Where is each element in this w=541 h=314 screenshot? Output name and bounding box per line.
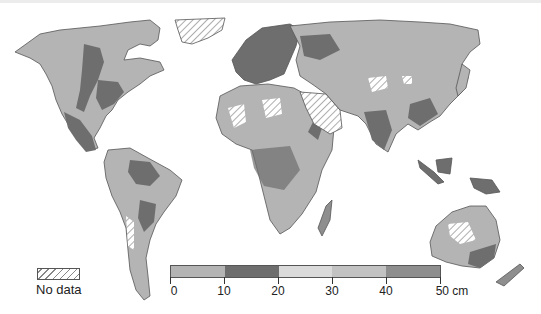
new-zealand [496, 264, 524, 286]
tick-label-30: 30 [325, 284, 338, 298]
tick-mark [332, 277, 333, 284]
tick-label-10: 10 [217, 284, 230, 298]
tick-label-0: 0 [171, 284, 178, 298]
greenland [175, 18, 225, 44]
legend-class-10-20 [225, 266, 279, 277]
no-data-swatch [37, 268, 80, 280]
legend-ticks [170, 277, 441, 285]
tick-mark [170, 277, 171, 284]
legend-class-20-30 [279, 266, 333, 277]
europe [232, 24, 300, 84]
no-data-label: No data [36, 282, 82, 297]
tick-mark [224, 277, 225, 284]
tick-mark [278, 277, 279, 284]
tick-mark [386, 277, 387, 284]
tick-label-20: 20 [271, 284, 284, 298]
legend-class-40-50 [386, 266, 440, 277]
legend-class-30-40 [332, 266, 386, 277]
legend-class-0-10 [171, 266, 225, 277]
tick-label-40: 40 [379, 284, 392, 298]
tick-mark [440, 277, 441, 284]
madagascar [318, 200, 332, 236]
tick-label-50-cm: 50 cm [436, 284, 469, 298]
